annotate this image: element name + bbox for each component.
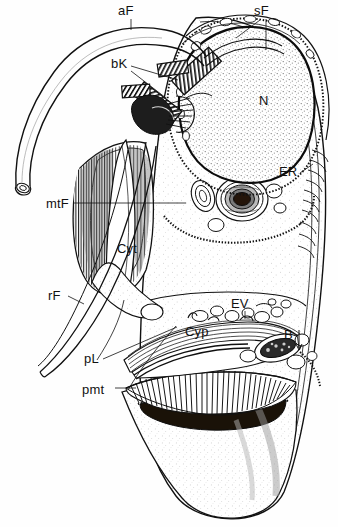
sperm-cell-diagram: aF sF bK N ER mtF Cyt rF EV Cyp B pL pmt: [0, 0, 338, 527]
label-Cyt: Cyt: [117, 241, 137, 256]
nucleus: [179, 27, 315, 183]
label-sF: sF: [254, 3, 269, 18]
label-B: B: [284, 327, 293, 342]
label-ER: ER: [279, 164, 297, 179]
label-EV: EV: [231, 296, 249, 311]
label-rF: rF: [48, 288, 61, 303]
label-pmt: pmt: [82, 382, 104, 397]
label-pL: pL: [84, 351, 99, 366]
label-mtF: mtF: [46, 196, 69, 211]
scientific-figure: aF sF bK N ER mtF Cyt rF EV Cyp B pL pmt: [0, 0, 338, 527]
label-aF: aF: [118, 3, 134, 18]
label-bK: bK: [111, 56, 127, 71]
label-N: N: [259, 93, 269, 108]
label-Cyp: Cyp: [185, 324, 209, 339]
